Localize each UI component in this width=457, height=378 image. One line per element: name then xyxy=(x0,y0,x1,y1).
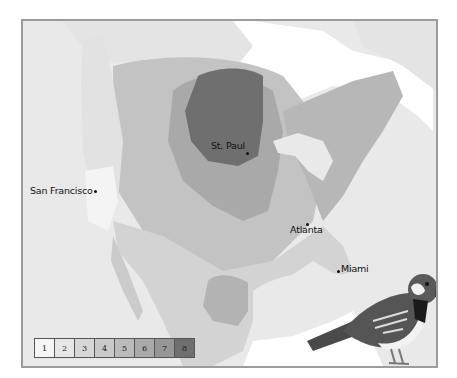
legend-cell-5: 5 xyxy=(115,339,135,357)
legend-cell-6: 6 xyxy=(135,339,155,357)
bird-beak xyxy=(435,289,436,297)
bird-eye xyxy=(425,282,429,286)
city-marker-atlanta xyxy=(306,223,309,226)
city-marker-san-francisco xyxy=(94,190,97,193)
bird-legs xyxy=(389,349,409,364)
legend-cell-2: 2 xyxy=(55,339,75,357)
city-label-st-paul: St. Paul xyxy=(211,140,245,151)
city-marker-st-paul xyxy=(246,152,249,155)
legend-cell-7: 7 xyxy=(155,339,175,357)
legend-cell-1: 1 xyxy=(35,339,55,357)
city-label-san-francisco: San Francisco xyxy=(30,185,93,196)
legend-cell-8: 8 xyxy=(175,339,194,357)
legend-cell-3: 3 xyxy=(75,339,95,357)
density-legend: 1 2 3 4 5 6 7 8 xyxy=(34,338,195,358)
legend-cell-4: 4 xyxy=(95,339,115,357)
house-sparrow-illustration xyxy=(303,251,436,366)
map-frame: St. Paul San Francisco Atlanta Miami 1 2… xyxy=(21,19,438,368)
